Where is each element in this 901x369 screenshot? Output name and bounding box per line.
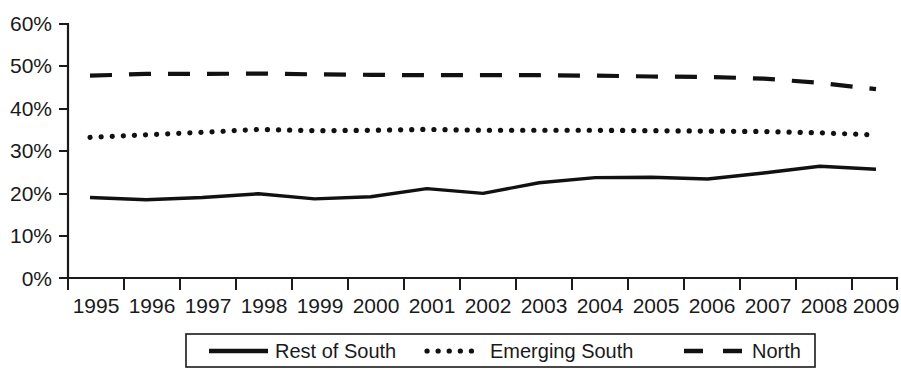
chart-canvas: 60% 50% 40% 30% 20% 10% 0% (0, 0, 901, 369)
legend-label-rest-of-south[interactable]: Rest of South (275, 340, 396, 362)
y-axis-tick-labels: 60% 50% 40% 30% 20% 10% 0% (10, 12, 52, 290)
x-axis-tick-labels: 1995 1996 1997 1998 1999 2000 2001 2002 … (73, 294, 900, 317)
x-axis-ticks (68, 278, 897, 290)
series-group (90, 74, 876, 200)
y-tick-label: 60% (10, 12, 52, 35)
chart-legend: Rest of South Emerging South North (186, 334, 815, 367)
x-tick-label: 2006 (689, 294, 736, 317)
line-chart: 60% 50% 40% 30% 20% 10% 0% (0, 0, 901, 369)
x-tick-label: 2002 (465, 294, 512, 317)
x-tick-label: 1999 (297, 294, 344, 317)
x-tick-label: 1996 (129, 294, 176, 317)
y-tick-label: 20% (10, 182, 52, 205)
x-tick-label: 2007 (745, 294, 792, 317)
y-tick-label: 0% (22, 267, 52, 290)
legend-label-north[interactable]: North (752, 340, 801, 362)
series-line-north (90, 74, 876, 90)
series-line-rest-of-south (90, 166, 876, 199)
x-tick-label: 1995 (73, 294, 120, 317)
x-tick-label: 2000 (353, 294, 400, 317)
y-axis-ticks (59, 24, 68, 278)
series-line-emerging-south (90, 129, 876, 137)
y-tick-label: 50% (10, 54, 52, 77)
x-tick-label: 1998 (241, 294, 288, 317)
y-tick-label: 40% (10, 97, 52, 120)
x-tick-label: 2003 (521, 294, 568, 317)
x-tick-label: 2001 (409, 294, 456, 317)
x-tick-label: 2005 (633, 294, 680, 317)
x-tick-label: 2004 (577, 294, 624, 317)
y-tick-label: 10% (10, 224, 52, 247)
x-tick-label: 2009 (853, 294, 900, 317)
y-tick-label: 30% (10, 139, 52, 162)
x-tick-label: 1997 (185, 294, 232, 317)
legend-label-emerging-south[interactable]: Emerging South (490, 340, 633, 362)
x-tick-label: 2008 (801, 294, 848, 317)
